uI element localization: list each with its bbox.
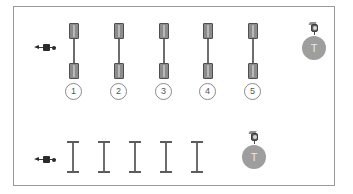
left-arrow-marker-lower[interactable] [34,155,56,164]
specimen-web [72,141,74,173]
marker-arrowhead-icon [34,45,39,49]
specimen-dumbbell-4[interactable] [202,23,214,79]
callout-circle-4[interactable]: 4 [199,83,216,100]
marker-nub [52,46,56,50]
specimen-ibeam-2[interactable] [98,141,110,173]
specimen-web [134,141,136,173]
pin-stem [254,140,255,144]
specimen-flange-top [129,141,141,143]
specimen-flange-bottom [67,171,79,173]
specimen-ibeam-5[interactable] [191,141,203,173]
specimen-flange-bottom [160,171,172,173]
specimen-flange-bottom [191,171,203,173]
specimen-cap-bottom [159,63,169,79]
specimen-flange-top [67,141,79,143]
specimen-ibeam-4[interactable] [160,141,172,173]
callout-circle-5[interactable]: 5 [244,83,261,100]
specimen-cap-bottom [248,63,258,79]
t-badge-upper[interactable]: T [302,36,326,60]
specimen-dumbbell-2[interactable] [113,23,125,79]
pin-lens [313,26,317,30]
specimen-dumbbell-3[interactable] [158,23,170,79]
specimen-ibeam-1[interactable] [67,141,79,173]
diagram-canvas: 1 2 3 4 5 T [0,0,353,194]
specimen-dumbbell-1[interactable] [68,23,80,79]
pin-stem [314,31,315,35]
specimen-flange-top [160,141,172,143]
specimen-flange-bottom [129,171,141,173]
specimen-cap-top [159,23,169,39]
callout-circle-2[interactable]: 2 [110,83,127,100]
camera-pin-icon [249,131,260,144]
specimen-flange-top [98,141,110,143]
specimen-cap-top [203,23,213,39]
diagram-frame: 1 2 3 4 5 T [13,6,335,186]
pin-lens [253,135,257,139]
marker-block [43,156,50,163]
specimen-ibeam-3[interactable] [129,141,141,173]
specimen-cap-top [69,23,79,39]
specimen-web [103,141,105,173]
specimen-flange-top [191,141,203,143]
specimen-web [196,141,198,173]
specimen-flange-bottom [98,171,110,173]
t-badge-lower[interactable]: T [242,145,266,169]
marker-block [43,44,50,51]
callout-circle-3[interactable]: 3 [155,83,172,100]
specimen-cap-bottom [69,63,79,79]
specimen-dumbbell-5[interactable] [247,23,259,79]
specimen-cap-bottom [114,63,124,79]
callout-circle-1[interactable]: 1 [65,83,82,100]
specimen-cap-top [114,23,124,39]
specimen-cap-top [248,23,258,39]
camera-pin-icon [309,22,320,35]
specimen-web [165,141,167,173]
marker-nub [52,158,56,162]
specimen-cap-bottom [203,63,213,79]
marker-arrowhead-icon [34,157,39,161]
left-arrow-marker-upper[interactable] [34,43,56,52]
